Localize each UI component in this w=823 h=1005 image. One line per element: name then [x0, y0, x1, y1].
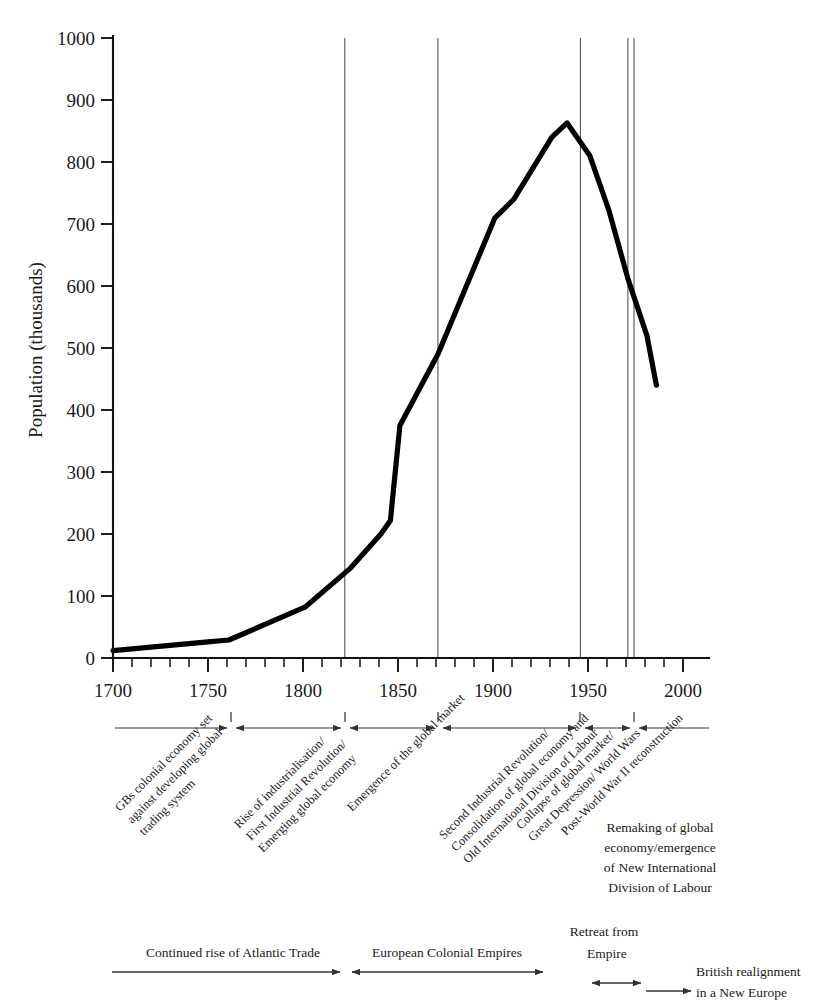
y-axis: 1000 900 800 700 600 500 400 300 200 100… [25, 28, 113, 669]
band-label-retreat-empire-line-1: Retreat from [570, 924, 639, 939]
y-tick-label-400: 400 [67, 400, 96, 421]
x-tick-label-1750: 1750 [189, 680, 227, 701]
band-label-retreat-empire-line-2: Empire [587, 946, 627, 961]
era-label-2: Rise of industrialisation/ First Industr… [231, 725, 362, 856]
band-label-colonial-empires: European Colonial Empires [372, 945, 522, 960]
era-rotated-labels: GBs colonial economy set against develop… [112, 691, 686, 867]
y-tick-label-500: 500 [67, 338, 96, 359]
y-tick-label-900: 900 [67, 90, 96, 111]
era-label-3-line-1: Emergence of the global market [344, 691, 467, 814]
population-line-series [113, 123, 656, 651]
era-label-7-line-1: Remaking of global [606, 820, 713, 835]
chart-canvas: 1000 900 800 700 600 500 400 300 200 100… [0, 0, 823, 1005]
plot-area [113, 38, 656, 658]
y-tick-label-200: 200 [67, 524, 96, 545]
x-tick-label-1850: 1850 [379, 680, 417, 701]
era-label-3: Emergence of the global market [344, 691, 467, 814]
era-label-1-line-2: against developing global [124, 725, 225, 826]
era-divider-lines [345, 38, 634, 658]
y-axis-title: Population (thousands) [25, 262, 47, 438]
y-tick-label-600: 600 [67, 276, 96, 297]
y-tick-label-700: 700 [67, 214, 96, 235]
x-tick-label-1800: 1800 [284, 680, 322, 701]
population-chart-figure: 1000 900 800 700 600 500 400 300 200 100… [0, 0, 823, 1005]
x-tick-label-1700: 1700 [94, 680, 132, 701]
band-label-british-realignment-line-1: British realignment [696, 964, 801, 979]
y-tick-label-1000: 1000 [57, 28, 95, 49]
x-axis: 1700 1750 1800 1850 1900 1950 2000 [94, 658, 709, 701]
y-tick-label-800: 800 [67, 152, 96, 173]
x-tick-label-2000: 2000 [664, 680, 702, 701]
era-label-2-line-2: First Industrial Revolution/ [243, 737, 350, 844]
y-tick-label-0: 0 [86, 648, 96, 669]
bottom-bands: Continued rise of Atlantic Trade Europea… [112, 924, 801, 1000]
era-label-7-horizontal: Remaking of global economy/emergence of … [604, 820, 717, 895]
band-label-british-realignment-line-2: in a New Europe [696, 985, 787, 1000]
x-tick-label-1950: 1950 [569, 680, 607, 701]
era-label-1: GBs colonial economy set against develop… [112, 711, 239, 838]
y-tick-label-300: 300 [67, 462, 96, 483]
era-label-2-line-3: Emerging global economy [255, 751, 359, 855]
band-label-atlantic-trade: Continued rise of Atlantic Trade [146, 945, 320, 960]
era-label-7-line-4: Division of Labour [608, 880, 712, 895]
era-label-7-line-3: of New International [604, 860, 717, 875]
era-label-7-line-2: economy/emergence [604, 840, 715, 855]
y-tick-label-100: 100 [67, 586, 96, 607]
x-tick-label-1900: 1900 [474, 680, 512, 701]
era-label-1-line-1: GBs colonial economy set [112, 711, 215, 814]
era-label-2-line-1: Rise of industrialisation/ [231, 734, 328, 831]
